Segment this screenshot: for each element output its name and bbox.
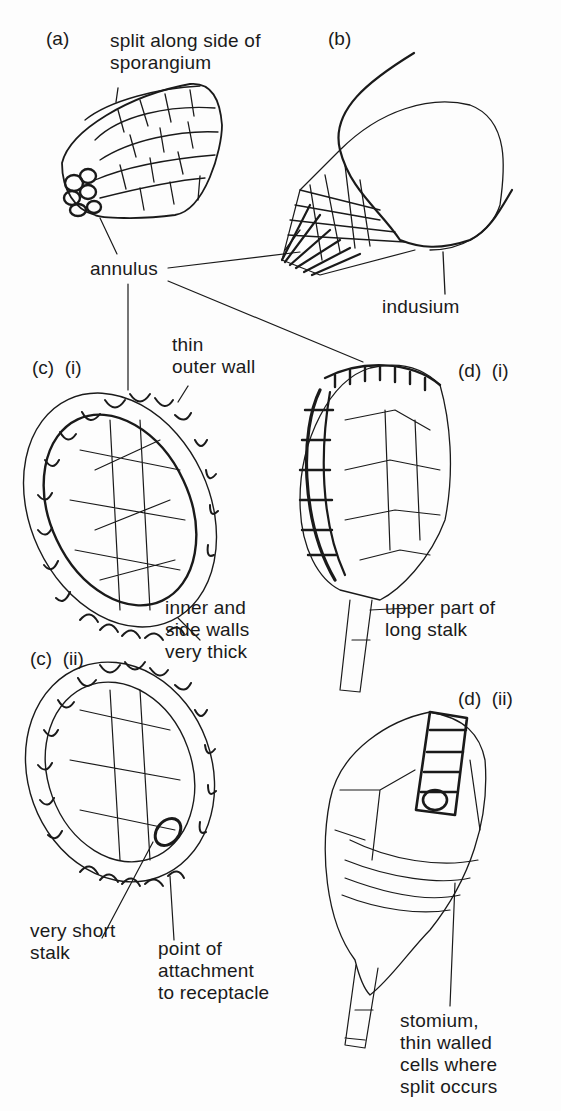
panel-tag-b: (b) [328,28,351,50]
sporangium-d-i-drawing [300,365,450,692]
label-stomium: stomium, thin walled cells where split o… [400,1010,497,1098]
sporangium-c-ii-drawing [0,635,245,940]
label-thin-outer-wall: thin outer wall [172,334,255,378]
panel-tag-c-ii: (c) (ii) [30,648,84,670]
label-very-short-stalk: very short stalk [30,920,115,964]
panel-tag-d-i: (d) (i) [458,360,509,382]
sporangium-d-ii-drawing [325,712,485,1048]
panel-tag-a: (a) [46,28,69,50]
label-split-along-side: split along side of sporangium [110,30,261,74]
label-annulus: annulus [90,258,158,280]
sporangium-a-drawing [62,84,222,218]
panel-tag-d-ii: (d) (ii) [458,688,513,710]
panel-tag-c-i: (c) (i) [32,357,82,379]
label-upper-part-stalk: upper part of long stalk [385,597,495,641]
label-indusium: indusium [382,296,460,318]
label-inner-side-walls: inner and side walls very thick [165,597,249,663]
label-point-of-attachment: point of attachment to receptacle [158,938,269,1004]
indusium-b-drawing [282,53,512,294]
sporangia-diagram: (a) (b) (c) (i) (d) (i) (c) (ii) (d) (ii… [0,0,561,1111]
annulus-row-d-ii [416,712,467,815]
